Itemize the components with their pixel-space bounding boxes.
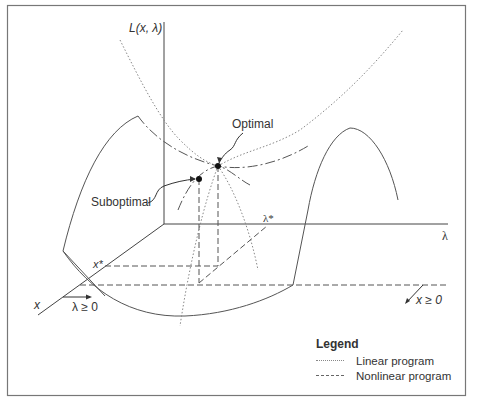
lambda-axis-label: λ	[442, 229, 448, 243]
legend-item-linear: Linear program	[316, 353, 451, 368]
l-axis-label: L(x, λ)	[129, 21, 162, 35]
x-star-label: x*	[92, 258, 104, 270]
saddle-surface-right-edge	[293, 128, 398, 285]
suboptimal-label: Suboptimal	[91, 195, 151, 209]
x-nonneg-label: x ≥ 0	[415, 293, 442, 307]
legend: Legend Linear program Nonlinear program	[316, 337, 451, 383]
lagrangian-saddle-diagram: L(x, λ) λ x x* λ* λ ≥ 0 x ≥ 0 Optimal Su…	[0, 0, 478, 406]
linear-curve-upper-left	[120, 40, 218, 166]
lambda-star-projection	[199, 226, 267, 283]
linear-curve-down-right	[218, 166, 258, 270]
legend-label-linear: Linear program	[356, 355, 434, 367]
nonlinear-curve-x-direction	[178, 166, 250, 210]
lambda-star-label: λ*	[263, 212, 274, 224]
optimal-point	[215, 163, 221, 169]
lambda-nonneg-label: λ ≥ 0	[72, 300, 98, 314]
optimal-label: Optimal	[232, 117, 273, 131]
suboptimal-arrowhead	[190, 176, 196, 182]
suboptimal-arrow	[148, 179, 195, 203]
dotted-line-swatch-icon	[316, 360, 344, 361]
dashed-line-swatch-icon	[316, 375, 344, 376]
suboptimal-point	[196, 176, 202, 182]
optimal-arrow	[219, 133, 243, 163]
linear-curve-upper-right	[218, 30, 403, 166]
legend-label-nonlinear: Nonlinear program	[356, 370, 451, 382]
x-axis-label: x	[33, 298, 41, 312]
lambda-nonneg-arrowhead	[86, 295, 92, 300]
legend-title: Legend	[316, 337, 451, 351]
legend-item-nonlinear: Nonlinear program	[316, 368, 451, 383]
